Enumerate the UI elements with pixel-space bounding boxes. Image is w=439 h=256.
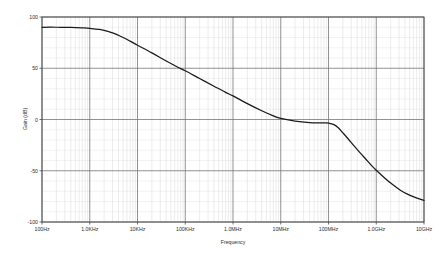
x-tick-label: 10KHz (130, 226, 146, 232)
x-tick-label: 10GHz (416, 226, 433, 232)
x-tick-label: 1.0KHz (81, 226, 98, 232)
y-tick-label: 0 (35, 117, 38, 123)
y-tick-label: 50 (32, 65, 38, 71)
x-tick-label: 100KHz (176, 226, 195, 232)
x-tick-label: 100Hz (35, 226, 50, 232)
y-tick-label: -100 (28, 219, 38, 225)
y-tick-label: -50 (31, 168, 39, 174)
x-tick-label: 10MHz (273, 226, 290, 232)
x-tick-label: 1.0GHz (367, 226, 385, 232)
chart-background (0, 0, 439, 256)
x-axis-tick-labels: 100Hz1.0KHz10KHz100KHz1.0MHz10MHz100MHz1… (35, 226, 433, 232)
y-tick-label: 100 (29, 14, 38, 20)
chart-canvas: 100Hz1.0KHz10KHz100KHz1.0MHz10MHz100MHz1… (0, 0, 439, 256)
x-axis-title: Frequency (221, 239, 246, 245)
x-tick-label: 1.0MHz (224, 226, 242, 232)
y-axis-title: Gain (dB) (22, 108, 28, 130)
x-tick-label: 100MHz (319, 226, 339, 232)
bode-plot-chart: 100Hz1.0KHz10KHz100KHz1.0MHz10MHz100MHz1… (0, 0, 439, 256)
